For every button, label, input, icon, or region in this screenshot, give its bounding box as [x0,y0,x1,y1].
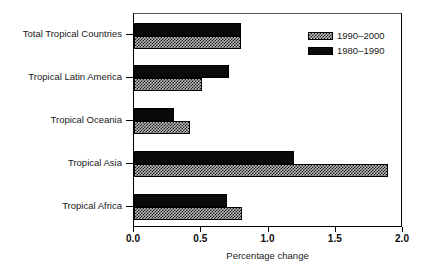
bar-1990-2000-total-tropical-countries [134,36,241,49]
x-axis-tick-4 [402,227,403,232]
x-axis-ticklabel-2: 1.0 [261,233,275,245]
bar-1980-1990-tropical-latin-america [134,65,229,78]
legend-item-1990-2000: 1990–2000 [308,28,398,43]
bar-1990-2000-tropical-latin-america [134,78,202,91]
legend-item-1980-1990: 1980–1990 [308,43,398,58]
y-axis-label-0: Total Tropical Countries [23,29,122,39]
bar-1980-1990-tropical-oceania [134,108,174,121]
y-axis-label-3: Tropical Asia [68,158,122,168]
legend-label-1980-1990: 1980–1990 [337,46,385,56]
bar-1980-1990-tropical-africa [134,194,227,207]
bar-1980-1990-total-tropical-countries [134,23,241,36]
x-axis-title: Percentage change [133,250,402,261]
x-axis-ticklabel-0: 0.0 [126,233,140,245]
x-axis-ticklabel-1: 0.5 [193,233,207,245]
y-axis-label-2: Tropical Oceania [51,115,122,125]
bar-1990-2000-tropical-oceania [134,121,190,134]
x-axis-ticklabel-4: 2.0 [395,233,409,245]
bar-1980-1990-tropical-asia [134,151,294,164]
x-axis-tick-0 [133,227,134,232]
y-axis-category-labels: Total Tropical Countries Tropical Latin … [0,13,128,227]
y-axis-label-4: Tropical Africa [62,201,122,211]
legend-swatch-hatch-icon [308,32,333,40]
x-axis-tick-2 [268,227,269,232]
bar-1990-2000-tropical-asia [134,164,388,177]
x-axis-tick-1 [200,227,201,232]
bar-chart-figure: Total Tropical Countries Tropical Latin … [0,0,427,269]
x-axis-ticklabel-3: 1.5 [328,233,342,245]
legend-swatch-solid-icon [308,47,333,55]
y-axis-label-1: Tropical Latin America [28,72,122,82]
legend-label-1990-2000: 1990–2000 [337,31,385,41]
bar-1990-2000-tropical-africa [134,207,242,220]
x-axis-tick-3 [335,227,336,232]
chart-legend: 1990–2000 1980–1990 [308,28,398,58]
